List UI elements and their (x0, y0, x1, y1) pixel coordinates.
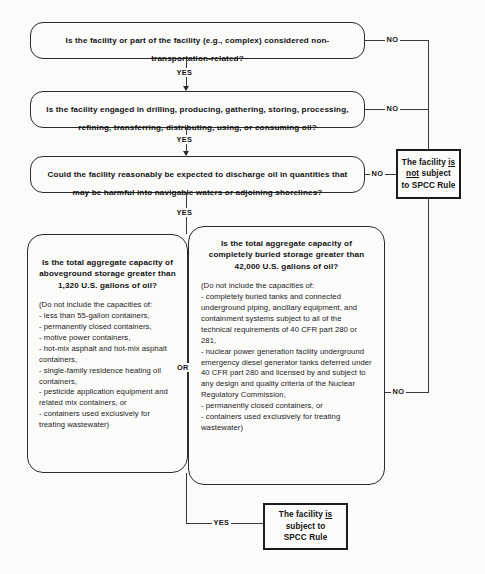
terminal-not-subject-line3: to SPCC Rule (402, 180, 456, 192)
edge-label-or: OR (177, 363, 189, 372)
terminal-subject-line1: The facility is (279, 509, 332, 521)
decision-q5-exclusions: (Do not include the capacities of: - com… (201, 281, 372, 434)
decision-q1-text: Is the facility or part of the facility … (66, 36, 330, 63)
edge-q4-yes-vline (186, 473, 187, 523)
decision-q4-exclusions: (Do not include the capacities of: - les… (39, 300, 176, 431)
decision-box-q3[interactable]: Could the facility reasonably be expecte… (30, 156, 365, 193)
terminal-subject-line3: SPCC Rule (279, 532, 332, 544)
edge-label-q5-no: NO (391, 387, 406, 396)
edge-label-q2-no: NO (385, 104, 400, 113)
terminal-subject-line2: subject to (279, 521, 332, 533)
terminal-not-subject-line1: The facility is (402, 157, 456, 169)
terminal-box-subject[interactable]: The facility is subject to SPCC Rule (263, 503, 348, 550)
decision-box-q5-buried[interactable]: Is the total aggregate capacity of compl… (188, 226, 385, 485)
edge-label-q2-yes: YES (175, 135, 194, 144)
decision-q3-text: Could the facility reasonably be expecte… (48, 170, 348, 197)
terminal-box-not-subject[interactable]: The facility is not subject to SPCC Rule (396, 149, 461, 199)
decision-box-q1[interactable]: Is the facility or part of the facility … (30, 22, 365, 59)
decision-q2-text: Is the facility engaged in drilling, pro… (46, 105, 348, 132)
decision-box-q2[interactable]: Is the facility engaged in drilling, pro… (30, 91, 365, 128)
edge-label-q3-no: NO (370, 169, 385, 178)
edge-label-q3-yes: YES (175, 208, 194, 217)
edge-no-trunk-upper (428, 40, 429, 149)
flowchart-canvas: Is the facility or part of the facility … (0, 0, 485, 574)
edge-no-trunk-lower (428, 199, 429, 392)
edge-label-q4-yes: YES (212, 518, 231, 527)
decision-q5-text: Is the total aggregate capacity of compl… (201, 238, 372, 272)
edge-label-q1-no: NO (385, 35, 400, 44)
terminal-not-subject-line2: not subject (402, 168, 456, 180)
decision-q4-text: Is the total aggregate capacity of above… (39, 257, 176, 291)
edge-label-q1-yes: YES (175, 68, 194, 77)
decision-box-q4-aboveground[interactable]: Is the total aggregate capacity of above… (27, 234, 188, 473)
